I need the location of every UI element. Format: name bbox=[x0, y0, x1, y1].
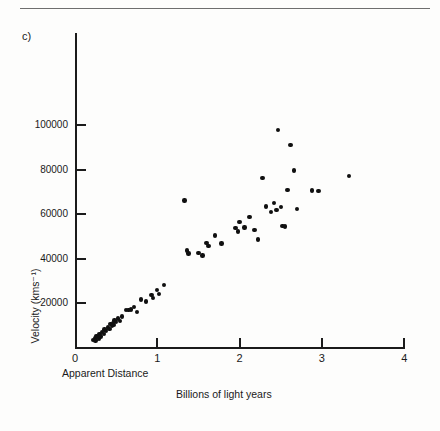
y-tick-label: 60000 bbox=[8, 208, 68, 219]
data-point bbox=[260, 176, 264, 180]
data-point bbox=[283, 224, 287, 228]
data-point bbox=[237, 220, 241, 224]
data-point bbox=[132, 305, 136, 309]
data-point bbox=[264, 204, 268, 208]
data-point bbox=[256, 237, 260, 241]
data-point bbox=[274, 208, 278, 212]
y-tick-mark bbox=[77, 213, 86, 215]
x-tick-label: 0 bbox=[60, 352, 90, 364]
y-tick-mark bbox=[77, 169, 86, 171]
data-point bbox=[347, 174, 351, 178]
y-tick-mark bbox=[77, 258, 86, 260]
y-tick-mark bbox=[77, 302, 86, 304]
x-axis-title-units: Billions of light years bbox=[176, 388, 272, 400]
data-point bbox=[135, 310, 139, 314]
data-point bbox=[182, 198, 186, 202]
y-tick-mark bbox=[77, 124, 86, 126]
x-tick-mark bbox=[403, 338, 405, 348]
x-tick-label: 2 bbox=[225, 352, 255, 364]
x-axis-title-primary: Apparent Distance bbox=[62, 367, 148, 379]
data-point bbox=[213, 233, 217, 237]
x-tick-label: 3 bbox=[307, 352, 337, 364]
x-tick-mark bbox=[239, 338, 241, 348]
data-point bbox=[118, 319, 122, 323]
y-tick-label: 100000 bbox=[8, 119, 68, 130]
data-point bbox=[242, 225, 246, 229]
x-tick-mark bbox=[321, 338, 323, 348]
data-point bbox=[236, 229, 240, 233]
y-axis-title: Velocity (kms⁻¹) bbox=[29, 246, 41, 366]
x-tick-label: 1 bbox=[142, 352, 172, 364]
data-point bbox=[157, 292, 161, 296]
data-point bbox=[252, 228, 256, 232]
data-point bbox=[295, 207, 299, 211]
figure-panel: c) 20000400006000080000100000 01234 Velo… bbox=[0, 0, 440, 431]
scatter-plot: 20000400006000080000100000 01234 Velocit… bbox=[0, 0, 440, 431]
data-point bbox=[200, 253, 204, 257]
data-point bbox=[316, 189, 320, 193]
data-point bbox=[285, 188, 289, 192]
data-point bbox=[292, 168, 296, 172]
data-point bbox=[279, 205, 283, 209]
data-point bbox=[144, 299, 148, 303]
data-point bbox=[206, 244, 210, 248]
data-point bbox=[186, 251, 190, 255]
data-point bbox=[139, 297, 143, 301]
data-point bbox=[219, 241, 223, 245]
data-point bbox=[247, 215, 251, 219]
y-tick-label: 80000 bbox=[8, 164, 68, 175]
data-point bbox=[272, 201, 276, 205]
x-tick-mark bbox=[156, 338, 158, 348]
data-point bbox=[276, 128, 280, 132]
data-point bbox=[269, 210, 273, 214]
data-point bbox=[162, 283, 166, 287]
data-point bbox=[310, 188, 314, 192]
data-point bbox=[288, 143, 292, 147]
data-point bbox=[151, 296, 155, 300]
x-tick-label: 4 bbox=[389, 352, 419, 364]
data-point bbox=[120, 314, 124, 318]
